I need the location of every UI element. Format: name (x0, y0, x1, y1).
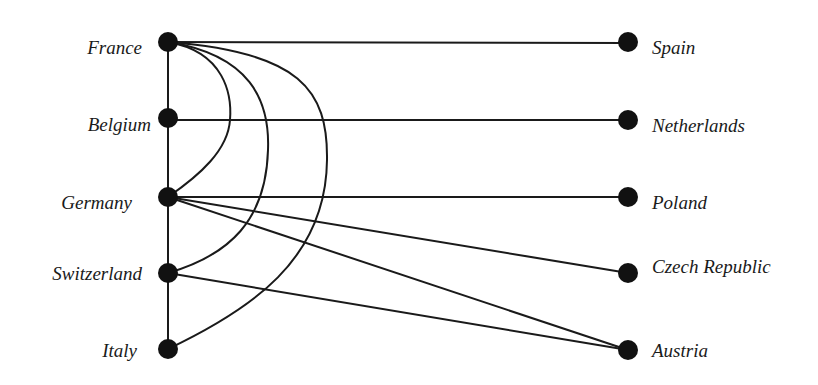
label-spain: Spain (652, 38, 695, 57)
label-france: France (87, 38, 142, 57)
label-germany: Germany (61, 193, 132, 212)
label-czech-republic: Czech Republic (652, 257, 771, 276)
node-netherlands (618, 110, 638, 130)
node-czech-republic (618, 263, 638, 283)
edge-france-italy-curve (168, 42, 327, 349)
node-austria (618, 340, 638, 360)
node-belgium (158, 108, 178, 128)
label-italy: Italy (102, 341, 137, 360)
edge-france-switzerland-curve (168, 42, 268, 273)
node-switzerland (158, 263, 178, 283)
node-italy (158, 339, 178, 359)
label-belgium: Belgium (88, 115, 151, 134)
label-poland: Poland (652, 193, 707, 212)
edge-france-spain (168, 42, 628, 43)
edge-germany-austria (168, 197, 628, 350)
label-austria: Austria (652, 341, 708, 360)
node-germany (158, 187, 178, 207)
country-graph-diagram: France Belgium Germany Switzerland Italy… (0, 0, 818, 385)
node-poland (618, 187, 638, 207)
label-netherlands: Netherlands (652, 116, 745, 135)
label-switzerland: Switzerland (52, 264, 142, 283)
node-france (158, 32, 178, 52)
node-spain (618, 32, 638, 52)
